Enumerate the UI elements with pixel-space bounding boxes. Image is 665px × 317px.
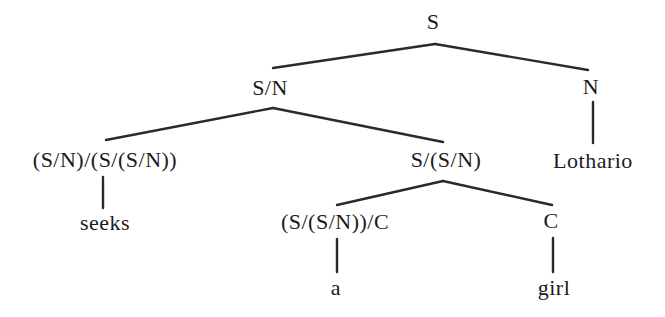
tree-node-lothario-word: Lothario (553, 150, 633, 172)
tree-node-girl-word: girl (538, 277, 571, 299)
tree-node-c: C (543, 210, 558, 232)
tree-edge-s-over-n-to-s-over-s-n (273, 108, 443, 142)
tree-edge-root-s-to-n (435, 44, 588, 70)
tree-node-root-s: S (427, 11, 440, 33)
tree-edge-s-over-s-n-to-a-cat (337, 181, 443, 205)
tree-node-a-word: a (331, 277, 341, 299)
tree-edge-s-over-n-to-seeks-cat (106, 108, 273, 140)
tree-edge-s-over-s-n-to-c (443, 181, 552, 205)
tree-node-seeks-word: seeks (80, 212, 130, 234)
tree-edge-root-s-to-s-over-n (273, 44, 435, 68)
tree-node-s-over-s-n: S/(S/N) (411, 149, 482, 171)
tree-node-s-over-n: S/N (252, 77, 288, 99)
tree-node-a-cat: (S/(S/N))/C (281, 211, 389, 233)
parse-tree-figure: SS/NN(S/N)/(S/(S/N))S/(S/N)Lotharioseeks… (0, 0, 665, 317)
tree-node-seeks-cat: (S/N)/(S/(S/N)) (33, 149, 177, 171)
tree-node-n: N (583, 76, 599, 98)
